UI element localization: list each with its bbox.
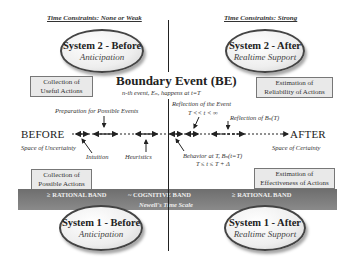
band-label-rational-right: ≥ RATIONAL BAND (232, 191, 291, 198)
box-effectiveness-of-actions: Estimation of Effectiveness of Actions (254, 168, 335, 189)
box-line: Estimation of (276, 170, 314, 179)
oval-title: System 1 - After (229, 217, 301, 229)
band-label-cognitive: ~ COGNITIVE BAND (128, 191, 191, 198)
oval-system1-before: System 1 - Before Anticipation (59, 205, 143, 251)
oval-title: System 1 - Before (62, 217, 140, 229)
oval-system1-after: System 1 - After Realtime Support (224, 205, 306, 251)
label-intuition: Intuition (86, 153, 108, 160)
oval-subtitle: Realtime Support (234, 229, 297, 240)
band-caption: Newell's Time Scale (139, 201, 193, 208)
box-line: Possible Actions (38, 180, 84, 189)
label-behavior-range: T ≤ t ≤ T + Δ (196, 160, 230, 167)
box-possible-actions: Collection of Possible Actions (31, 169, 92, 190)
divider-line-band (168, 189, 169, 251)
band-label-rational-left: ≥ RATIONAL BAND (47, 191, 106, 198)
box-line: Effectiveness of Actions (260, 179, 328, 188)
oval-subtitle: Anticipation (79, 229, 124, 240)
label-behavior: Behavior at T, Bₙ(t=T) (183, 152, 242, 160)
box-line: Collection of (43, 171, 80, 180)
label-heuristics: Heuristics (125, 153, 152, 160)
